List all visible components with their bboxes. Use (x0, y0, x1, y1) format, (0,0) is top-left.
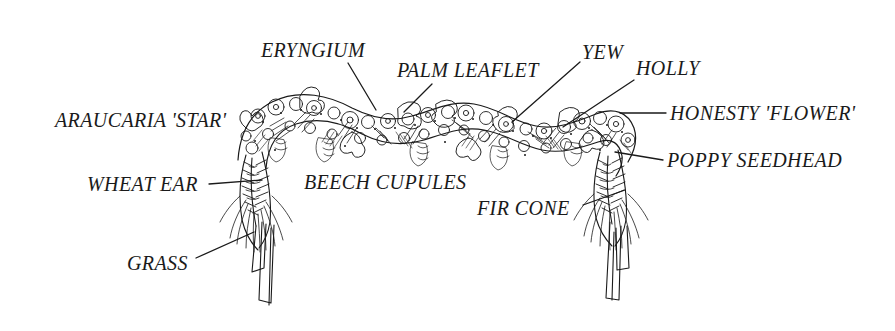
label-eryngium: ERYNGIUM (261, 40, 365, 60)
garland-cupules (268, 138, 583, 170)
ribbon-tail-left (252, 222, 274, 305)
garland-diagram-figure: ARAUCARIA 'STAR' ERYNGIUM PALM LEAFLET Y… (0, 0, 895, 331)
label-honesty-flower: HONESTY 'FLOWER' (670, 103, 856, 123)
right-hanging-cluster (574, 150, 648, 250)
label-poppy-seedhead: POPPY SEEDHEAD (667, 150, 842, 170)
label-palm-leaflet: PALM LEAFLET (397, 60, 539, 80)
label-wheat-ear: WHEAT EAR (87, 174, 198, 194)
label-araucaria-star: ARAUCARIA 'STAR' (55, 110, 226, 130)
leader-line-eryngium (348, 63, 376, 110)
left-hanging-cluster (220, 152, 292, 252)
label-holly: HOLLY (636, 58, 700, 78)
label-fir-cone: FIR CONE (477, 198, 570, 218)
label-yew: YEW (582, 42, 623, 62)
leader-line-grass (196, 232, 254, 258)
label-beech-cupules: BEECH CUPULES (304, 172, 466, 192)
label-grass: GRASS (127, 253, 188, 273)
